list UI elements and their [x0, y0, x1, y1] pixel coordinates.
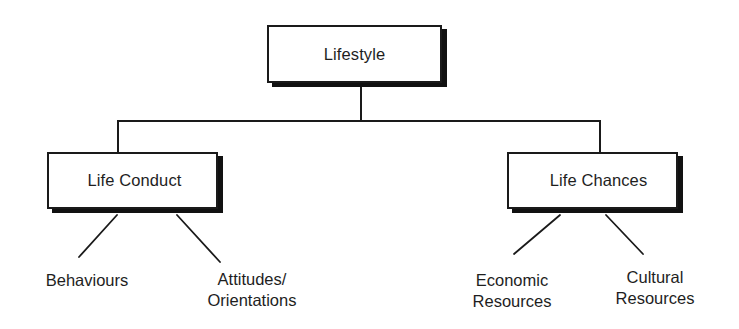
behaviours-label: Behaviours	[46, 270, 129, 291]
lifestyle-node: Lifestyle	[267, 25, 442, 83]
cultural-resources-leaf: Cultural Resources	[616, 267, 695, 308]
behaviours-leaf: Behaviours	[46, 270, 129, 291]
life-conduct-label: Life Conduct	[88, 172, 182, 189]
cultural-edge-line	[606, 215, 643, 254]
lifestyle-diagram: Lifestyle Life Conduct Life Chances Beha…	[0, 0, 739, 329]
attitudes-edge-line	[177, 215, 220, 262]
life-chances-node: Life Chances	[507, 152, 678, 209]
life-chances-label: Life Chances	[550, 172, 648, 189]
orientations-label: Orientations	[208, 290, 297, 311]
economic-resources-leaf: Economic Resources	[473, 270, 552, 311]
economic-resources-label: Resources	[473, 291, 552, 312]
behaviours-edge-line	[79, 215, 117, 257]
cultural-label: Cultural	[616, 267, 695, 288]
economic-edge-line	[514, 215, 560, 254]
cultural-resources-label: Resources	[616, 288, 695, 309]
attitudes-label: Attitudes/	[208, 269, 297, 290]
attitudes-orientations-leaf: Attitudes/ Orientations	[208, 269, 297, 310]
lifestyle-label: Lifestyle	[324, 46, 385, 63]
economic-label: Economic	[473, 270, 552, 291]
life-conduct-node: Life Conduct	[47, 152, 218, 209]
